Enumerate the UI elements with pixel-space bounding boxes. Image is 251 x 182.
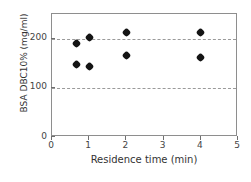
gridline-y-200: [52, 39, 236, 40]
x-tick-mark: [163, 136, 164, 140]
chart-figure: 0100200 BSA DBC10% (mg/ml) 012345 Reside…: [0, 0, 251, 182]
x-tick-label: 5: [227, 140, 247, 150]
x-tick-label: 1: [78, 140, 98, 150]
x-tick-label: 2: [115, 140, 135, 150]
data-point: [84, 32, 94, 42]
gridline-y-100: [52, 88, 236, 89]
data-point: [196, 52, 206, 62]
plot-area: [51, 13, 237, 136]
x-tick-mark: [200, 136, 201, 140]
data-point: [196, 28, 206, 38]
data-point: [72, 39, 82, 49]
x-axis-title: Residence time (min): [51, 154, 237, 165]
data-point: [84, 62, 94, 72]
x-tick-label: 0: [41, 140, 61, 150]
x-tick-mark: [88, 136, 89, 140]
x-tick-label: 3: [153, 140, 173, 150]
x-tick-mark: [237, 136, 238, 140]
x-axis-tick-labels: 012345: [51, 140, 237, 152]
x-tick-label: 4: [190, 140, 210, 150]
data-point: [121, 51, 131, 61]
y-tick-mark: [51, 38, 55, 39]
y-axis-title: BSA DBC10% (mg/ml): [19, 0, 29, 133]
data-point: [72, 59, 82, 69]
x-tick-mark: [125, 136, 126, 140]
x-tick-mark: [51, 136, 52, 140]
data-point: [121, 28, 131, 38]
y-tick-mark: [51, 87, 55, 88]
